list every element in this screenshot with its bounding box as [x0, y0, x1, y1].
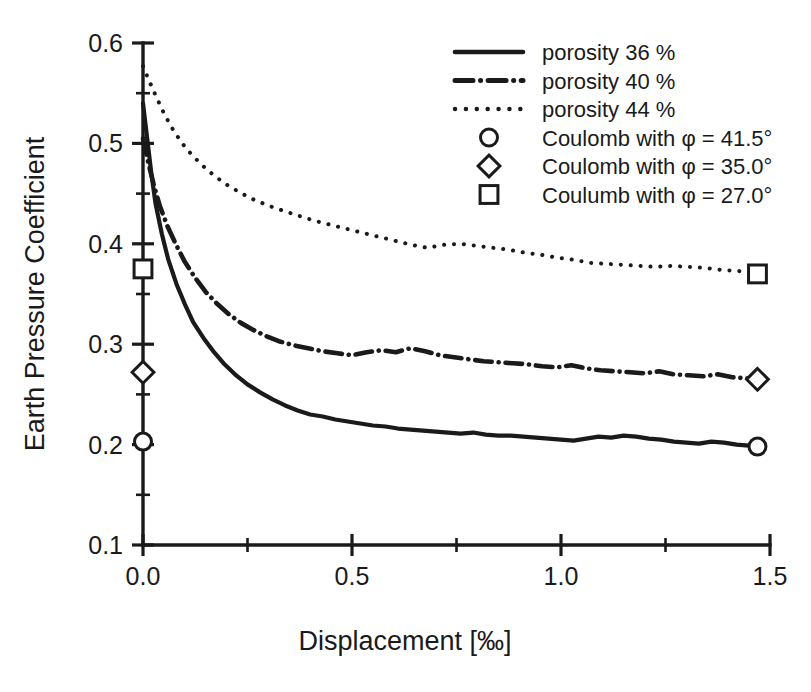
y-tick-label: 0.4 — [88, 230, 123, 258]
legend-marker-sample-circle — [481, 129, 498, 146]
x-axis-title: Displacement [‰] — [298, 626, 511, 656]
x-tick-label: 1.0 — [544, 562, 579, 590]
y-tick-label: 0.6 — [88, 29, 123, 57]
y-tick-label: 0.3 — [88, 330, 123, 358]
earth-pressure-coefficient-chart: 0.10.20.30.40.50.6 0.00.51.01.5 Displace… — [0, 0, 811, 692]
coulomb-marker-circle — [135, 433, 152, 450]
y-tick-label: 0.2 — [88, 431, 123, 459]
legend-label: Coulomb with φ = 35.0° — [542, 154, 772, 179]
legend-marker-sample-square — [480, 186, 498, 204]
x-tick-label: 1.5 — [753, 562, 788, 590]
legend-label: Coulomb with φ = 41.5° — [542, 126, 772, 151]
chart-figure: 0.10.20.30.40.50.6 0.00.51.01.5 Displace… — [0, 0, 811, 692]
coulomb-marker-square — [749, 265, 767, 283]
legend-label: Coulumb with φ = 27.0° — [542, 183, 772, 208]
x-tick-label: 0.0 — [126, 562, 161, 590]
legend-label: porosity 40 % — [542, 69, 675, 94]
y-axis-title: Earth Pressure Coefficient — [20, 136, 50, 451]
coulomb-marker-circle — [749, 438, 766, 455]
legend-label: porosity 36 % — [542, 40, 675, 65]
coulomb-marker-square — [134, 260, 152, 278]
x-tick-label: 0.5 — [335, 562, 370, 590]
legend-label: porosity 44 % — [542, 97, 675, 122]
y-tick-label: 0.1 — [88, 531, 123, 559]
y-tick-label: 0.5 — [88, 129, 123, 157]
